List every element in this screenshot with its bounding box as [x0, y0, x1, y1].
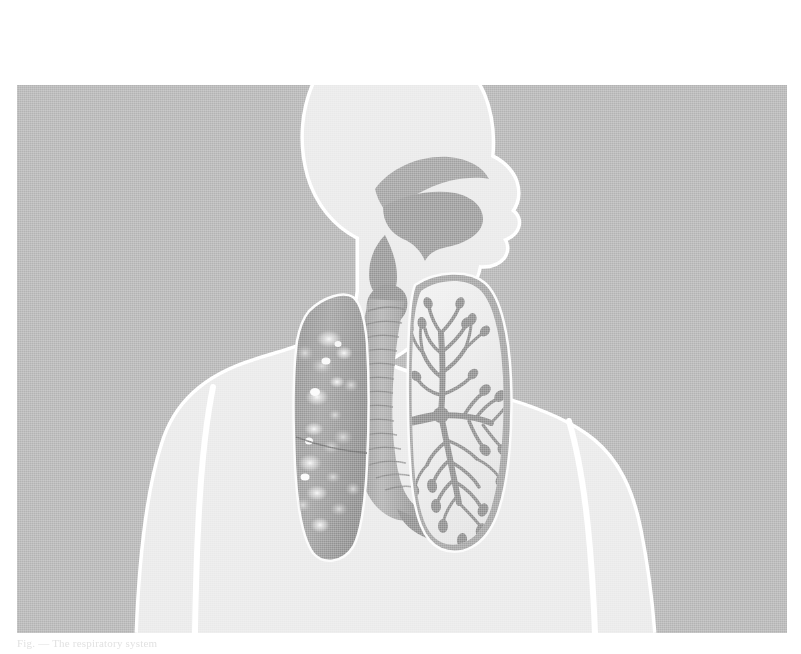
figure-page: Fig. — The respiratory system	[0, 0, 801, 654]
right-lung	[402, 273, 516, 551]
illustration-plate	[17, 85, 787, 633]
figure-caption: Fig. — The respiratory system	[17, 636, 347, 650]
respiratory-system-illustration	[17, 85, 787, 633]
left-lung	[294, 295, 369, 561]
body-silhouette	[138, 85, 653, 633]
